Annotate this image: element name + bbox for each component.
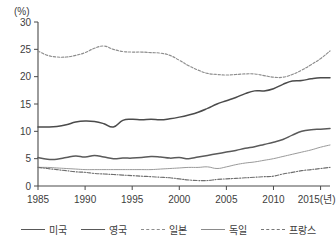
legend-item: 독일 bbox=[201, 222, 247, 237]
legend-line-swatch bbox=[81, 225, 105, 234]
series-line bbox=[38, 129, 330, 160]
x-axis-tick-label: 2015(년) bbox=[298, 194, 336, 205]
legend-item: 일본 bbox=[141, 222, 187, 237]
y-axis-tick-label: 25 bbox=[20, 44, 32, 55]
series-line bbox=[38, 78, 330, 127]
line-chart: (%) 051015202530 19851990199520002005201… bbox=[0, 0, 336, 246]
chart-legend: 미국영국일본독일프랑스 bbox=[0, 214, 336, 244]
legend-line-swatch bbox=[261, 225, 285, 234]
x-axis-tick-label: 2005 bbox=[215, 194, 238, 205]
legend-line-swatch bbox=[201, 225, 225, 234]
legend-line-swatch bbox=[21, 225, 45, 234]
y-axis-tick-label: 0 bbox=[25, 181, 31, 192]
x-axis-tick-group: 1985199019952000200520102015(년) bbox=[27, 186, 336, 205]
legend-item-label: 미국 bbox=[49, 222, 67, 237]
legend-item: 영국 bbox=[81, 222, 127, 237]
legend-item-label: 일본 bbox=[169, 222, 187, 237]
x-axis-tick-label: 1985 bbox=[27, 194, 50, 205]
x-axis-tick-label: 1995 bbox=[121, 194, 144, 205]
y-axis-tick-label: 20 bbox=[20, 71, 32, 82]
y-axis-tick-label: 10 bbox=[20, 126, 32, 137]
legend-item-label: 프랑스 bbox=[289, 222, 316, 237]
chart-plot-area: 051015202530 198519901995200020052010201… bbox=[0, 0, 336, 214]
legend-item-label: 영국 bbox=[109, 222, 127, 237]
x-axis-tick-label: 2010 bbox=[262, 194, 285, 205]
legend-item: 미국 bbox=[21, 222, 67, 237]
y-axis-tick-label: 15 bbox=[20, 99, 32, 110]
y-axis-tick-label: 5 bbox=[25, 153, 31, 164]
y-axis-tick-label: 30 bbox=[20, 17, 32, 28]
legend-line-swatch bbox=[141, 225, 165, 234]
series-line bbox=[38, 46, 330, 78]
legend-item: 프랑스 bbox=[261, 222, 316, 237]
data-series-group bbox=[38, 46, 330, 181]
x-axis-tick-label: 1990 bbox=[74, 194, 97, 205]
x-axis-tick-label: 2000 bbox=[168, 194, 191, 205]
y-axis-tick-group: 051015202530 bbox=[20, 17, 38, 192]
legend-item-label: 독일 bbox=[229, 222, 247, 237]
